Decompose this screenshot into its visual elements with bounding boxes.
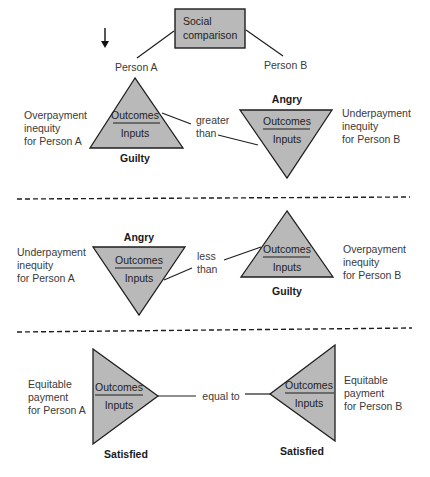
person-b-label: Person B [264, 59, 307, 71]
comparison-label: greater than [196, 114, 232, 139]
outcomes-label: Outcomes [285, 379, 333, 391]
outcomes-label: Outcomes [111, 109, 159, 121]
emotion-angry: Angry [124, 231, 154, 243]
social-comparison-line2: comparison [183, 29, 237, 41]
emotion-guilty: Guilty [272, 285, 302, 297]
inputs-label: Inputs [105, 399, 134, 411]
left-label: Underpayment inequity for Person A [17, 246, 89, 284]
comparison-label: less than [197, 250, 219, 275]
emotion-satisfied: Satisfied [280, 445, 324, 457]
section-equitable: Equitable payment for Person A Outcomes … [28, 345, 402, 460]
right-label: Underpayment inequity for Person B [342, 107, 414, 145]
emotion-guilty: Guilty [120, 152, 150, 164]
emotion-satisfied: Satisfied [104, 448, 148, 460]
comparison-connector-left [162, 113, 191, 124]
left-label: Overpayment inequity for Person A [24, 109, 90, 147]
inputs-label: Inputs [273, 261, 302, 273]
equity-theory-diagram: Social comparison Person A Person B Over… [0, 0, 430, 477]
connector-person-b [246, 30, 283, 56]
inputs-label: Inputs [125, 272, 154, 284]
inputs-label: Inputs [295, 397, 324, 409]
outcomes-label: Outcomes [115, 254, 163, 266]
person-a-triangle-right [93, 349, 158, 444]
section-overpayment-a: Overpayment inequity for Person A Outcom… [24, 78, 414, 178]
comparison-connector-right [218, 135, 258, 145]
social-comparison-header: Social comparison Person A Person B [101, 9, 307, 73]
inputs-label: Inputs [273, 133, 302, 145]
down-arrow-icon [101, 28, 109, 48]
emotion-angry: Angry [272, 93, 302, 105]
right-label: Overpayment inequity for Person B [343, 243, 409, 281]
outcomes-label: Outcomes [263, 115, 311, 127]
connector-person-a [137, 31, 174, 58]
inputs-label: Inputs [121, 127, 150, 139]
right-label: Equitable payment for Person B [344, 374, 402, 412]
comparison-label: equal to [202, 390, 240, 402]
section-divider-1 [17, 197, 410, 199]
left-label: Equitable payment for Person A [28, 378, 86, 416]
social-comparison-line1: Social [183, 15, 212, 27]
outcomes-label: Outcomes [263, 243, 311, 255]
outcomes-label: Outcomes [95, 381, 143, 393]
section-divider-2 [17, 328, 412, 332]
section-underpayment-a: Underpayment inequity for Person A Angry… [17, 211, 409, 315]
person-a-label: Person A [115, 61, 158, 73]
